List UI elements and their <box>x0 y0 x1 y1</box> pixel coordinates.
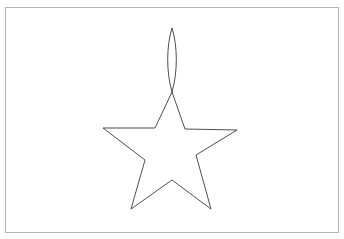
drawing-canvas <box>0 0 344 239</box>
canvas-background <box>0 0 344 239</box>
vector-artboard <box>0 0 344 239</box>
